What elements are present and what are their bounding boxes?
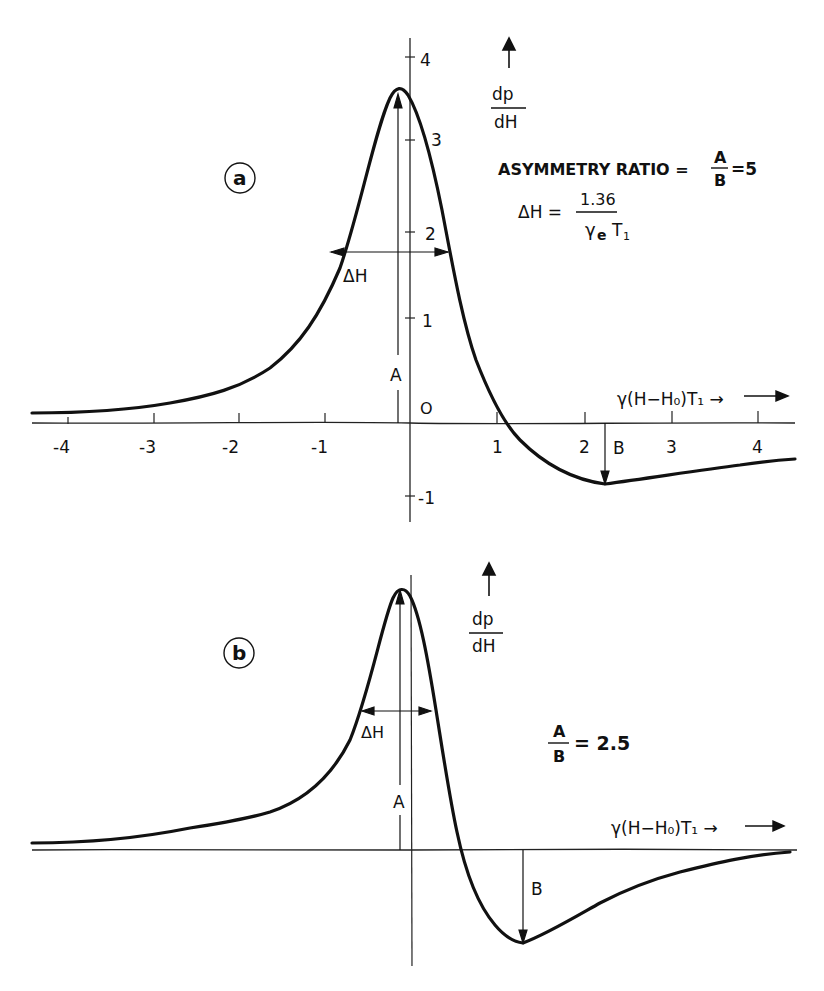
y-axis-b — [411, 575, 412, 966]
delta-h-arrow-b — [362, 707, 431, 715]
svg-text:2: 2 — [579, 437, 590, 457]
svg-text:1: 1 — [422, 311, 433, 331]
b-arrow-b — [519, 850, 527, 943]
x-axis-a — [32, 422, 795, 423]
svg-text:dH: dH — [472, 636, 496, 656]
svg-text:1: 1 — [623, 230, 630, 243]
svg-text:= 2.5: = 2.5 — [574, 732, 630, 754]
svg-text:B: B — [714, 171, 726, 190]
svg-text:1: 1 — [492, 437, 503, 457]
svg-text:-2: -2 — [222, 437, 239, 457]
svg-text:3: 3 — [666, 437, 677, 457]
svg-text:dp: dp — [492, 84, 514, 104]
y-tick-labels-a: 4 3 2 1 -1 — [418, 50, 442, 508]
svg-text:b: b — [232, 641, 246, 665]
svg-text:1.36: 1.36 — [580, 190, 616, 209]
svg-text:-4: -4 — [53, 437, 70, 457]
svg-text:e: e — [597, 227, 607, 243]
y-axis-arrow-icon-a — [503, 38, 515, 68]
svg-text:A: A — [553, 722, 566, 741]
x-axis-arrow-icon-a — [744, 391, 788, 401]
panel-a: -4 -3 -2 -1 1 2 3 4 O 4 3 2 1 -1 A — [32, 38, 795, 522]
svg-text:T: T — [611, 220, 623, 240]
panel-label-a: a — [225, 163, 255, 193]
x-ticks-a — [68, 411, 758, 424]
b-arrow-a — [601, 423, 609, 484]
x-axis-label-b: γ(H−H₀)T₁ → — [611, 818, 718, 838]
b-label-a: B — [613, 438, 625, 458]
a-label-b: A — [393, 792, 405, 812]
delta-h-arrow-a — [331, 248, 448, 256]
svg-text:4: 4 — [752, 437, 763, 457]
delta-h-label-a: ΔH — [343, 266, 367, 286]
asymmetry-ratio-annotation: ASYMMETRY RATIO = A B =5 — [498, 148, 757, 190]
chart-figure: -4 -3 -2 -1 1 2 3 4 O 4 3 2 1 -1 A — [0, 0, 824, 991]
x-axis-label-a: γ(H−H₀)T₁ → — [617, 389, 724, 409]
a-label-a: A — [390, 365, 402, 385]
delta-h-label-b: ΔH — [361, 723, 384, 742]
svg-text:=5: =5 — [731, 159, 757, 179]
y-axis-arrow-icon-b — [483, 563, 495, 596]
panel-b: A ΔH B γ(H−H₀)T₁ → dp dH — [32, 563, 797, 966]
svg-text:dp: dp — [472, 609, 494, 629]
svg-text:a: a — [233, 166, 247, 190]
curve-a — [32, 89, 795, 484]
svg-text:ASYMMETRY RATIO =: ASYMMETRY RATIO = — [498, 160, 689, 179]
b-label-b: B — [531, 879, 543, 899]
origin-label-a: O — [420, 399, 433, 418]
x-axis-arrow-icon-b — [745, 821, 784, 831]
y-axis-label-a: dp dH — [491, 84, 526, 132]
svg-text:ΔH =: ΔH = — [518, 202, 562, 222]
svg-text:-1: -1 — [311, 437, 328, 457]
svg-text:-3: -3 — [139, 437, 156, 457]
svg-text:γ: γ — [585, 219, 596, 240]
svg-text:dH: dH — [494, 112, 518, 132]
svg-text:B: B — [553, 747, 565, 766]
y-axis-label-b: dp dH — [469, 609, 503, 656]
x-tick-labels-a: -4 -3 -2 -1 1 2 3 4 — [53, 437, 763, 457]
svg-text:2: 2 — [425, 224, 436, 244]
svg-text:3: 3 — [431, 130, 442, 150]
x-axis-b — [32, 849, 797, 850]
svg-text:4: 4 — [420, 50, 431, 70]
svg-text:-1: -1 — [418, 488, 435, 508]
panel-label-b: b — [224, 638, 254, 668]
linewidth-formula: ΔH = 1.36 γ e T 1 — [518, 190, 630, 243]
svg-text:A: A — [714, 148, 727, 167]
ratio-annotation-b: A B = 2.5 — [548, 722, 630, 766]
